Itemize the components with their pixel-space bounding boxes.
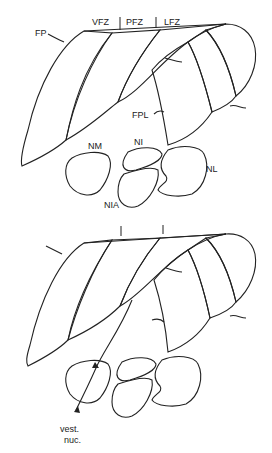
pfz-region	[118, 24, 226, 102]
label-pfz: PFZ	[126, 17, 144, 27]
vfz-region	[66, 30, 160, 140]
nl-nucleus	[158, 147, 207, 197]
label-fpl: FPL	[132, 110, 149, 120]
vestibular-pathway	[76, 300, 132, 410]
label-nuc: nuc.	[64, 435, 81, 445]
label-fp: FP	[35, 28, 47, 38]
nm-nucleus-bottom	[66, 360, 111, 403]
nia-nucleus	[118, 168, 158, 207]
nm-nucleus	[66, 152, 111, 195]
label-ni: NI	[134, 137, 143, 147]
label-nia: NIA	[104, 200, 119, 210]
fpl-region	[152, 42, 212, 145]
label-nm: NM	[88, 141, 102, 151]
fpl-region-bottom	[154, 250, 210, 352]
nia-nucleus-bottom	[112, 378, 152, 417]
bottom-panel: vest. nuc.	[27, 225, 256, 445]
label-vfz: VFZ	[92, 17, 110, 27]
label-vest: vest.	[60, 424, 79, 434]
cerebellar-nuclei-diagram: FP VFZ PFZ LFZ FPL NM NI NIA NL	[0, 0, 272, 453]
lateral-cap-region	[206, 24, 256, 96]
vfz-region-bottom	[68, 238, 160, 340]
nl-nucleus-bottom	[152, 357, 201, 407]
top-panel: FP VFZ PFZ LFZ FPL NM NI NIA NL	[21, 17, 255, 210]
label-lfz: LFZ	[164, 17, 181, 27]
ni-nucleus	[123, 148, 162, 171]
label-nl: NL	[206, 164, 218, 174]
fp-region-bottom	[27, 240, 112, 366]
ni-nucleus-bottom	[117, 358, 156, 381]
lateral-cap-region-bottom	[206, 234, 256, 302]
